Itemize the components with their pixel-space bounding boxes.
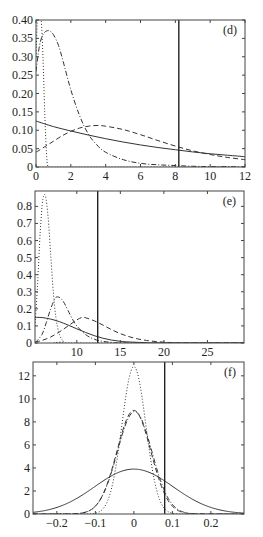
series-dash-dot-line [33, 412, 244, 514]
x-tick-label: −0.1 [84, 516, 106, 530]
panel-label: (d) [223, 23, 237, 37]
y-tick-label: 0.40 [12, 13, 33, 27]
y-tick-label: 0.25 [12, 68, 33, 82]
figure: 02468101200.050.100.150.200.250.300.350.… [0, 0, 263, 537]
x-tick-label: 15 [114, 345, 126, 359]
y-tick-label: 0.6 [17, 234, 32, 248]
y-tick-label: 0.8 [17, 199, 32, 213]
y-tick-label: 12 [18, 369, 30, 383]
plot-frame [33, 362, 244, 514]
x-tick-label: 0.1 [165, 516, 180, 530]
y-tick-label: 0.5 [17, 251, 32, 265]
panel-label: (f) [224, 365, 236, 379]
series-dash-dot-line [36, 31, 245, 167]
y-tick-label: 0.30 [12, 50, 33, 64]
y-tick-label: 0.05 [12, 142, 33, 156]
chart-panel-e: 1015202500.10.20.30.40.50.60.70.8(e) [17, 191, 244, 359]
x-tick-label: 2 [68, 169, 74, 183]
y-tick-label: 0.1 [17, 319, 32, 333]
x-tick-label: 4 [103, 169, 109, 183]
x-tick-label: 10 [71, 345, 83, 359]
chart-panel-f: −0.2−0.100.10.2024681012(f) [18, 362, 244, 530]
y-tick-label: 0 [27, 160, 33, 174]
x-tick-label: 0 [33, 169, 39, 183]
chart-panel-d: 02468101200.050.100.150.200.250.300.350.… [12, 9, 251, 183]
y-tick-label: 4 [24, 461, 30, 475]
series-dashed-line [35, 317, 244, 343]
series-dotted-line [35, 194, 244, 343]
x-tick-label: 0 [131, 516, 137, 530]
series-dashed-line [33, 410, 244, 514]
series-solid-line [33, 469, 244, 513]
series-group [35, 194, 244, 343]
y-tick-label: 0.4 [17, 268, 32, 282]
y-tick-label: 0.2 [17, 302, 32, 316]
x-tick-label: 12 [239, 169, 251, 183]
plot-frame [35, 191, 244, 343]
series-group [33, 367, 244, 514]
y-tick-label: 6 [24, 438, 30, 452]
series-dotted-line [33, 367, 244, 514]
series-solid-line [36, 121, 245, 157]
series-dotted-line [36, 9, 245, 168]
x-tick-label: 25 [201, 345, 213, 359]
x-tick-label: 8 [172, 169, 178, 183]
y-tick-label: 0 [24, 507, 30, 521]
series-dash-dot-line [35, 297, 244, 343]
x-tick-label: −0.2 [46, 516, 68, 530]
x-tick-label: 0.2 [203, 516, 218, 530]
y-tick-label: 8 [24, 415, 30, 429]
x-tick-label: 20 [158, 345, 170, 359]
series-group [36, 9, 245, 168]
x-tick-label: 10 [204, 169, 216, 183]
y-tick-label: 0.10 [12, 123, 33, 137]
x-tick-label: 6 [138, 169, 144, 183]
y-tick-label: 0.3 [17, 285, 32, 299]
panel-label: (e) [223, 194, 236, 208]
y-tick-label: 10 [18, 392, 30, 406]
y-tick-label: 0.15 [12, 105, 33, 119]
y-tick-label: 0 [26, 336, 32, 350]
y-tick-label: 2 [24, 484, 30, 498]
y-tick-label: 0.7 [17, 216, 32, 230]
y-tick-label: 0.35 [12, 31, 33, 45]
y-tick-label: 0.20 [12, 87, 33, 101]
